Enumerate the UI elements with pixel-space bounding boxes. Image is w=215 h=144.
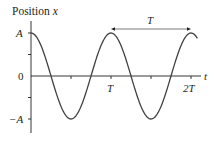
x-axis-label: t	[204, 70, 208, 82]
arrow-right-icon	[187, 27, 191, 30]
period-annotation: T	[111, 14, 191, 31]
ytick-label-A: A	[15, 27, 23, 39]
position-time-chart: Positionx A 0 −A T 2T t T	[0, 0, 215, 144]
ytick-label-minus-A: −A	[9, 113, 23, 125]
arrow-left-icon	[111, 27, 115, 30]
y-axis-label: Positionx	[12, 5, 59, 17]
xtick-label-T: T	[107, 82, 114, 94]
ytick-label-zero: 0	[18, 70, 24, 82]
xtick-label-2T: 2T	[183, 82, 196, 94]
period-label: T	[147, 14, 154, 26]
